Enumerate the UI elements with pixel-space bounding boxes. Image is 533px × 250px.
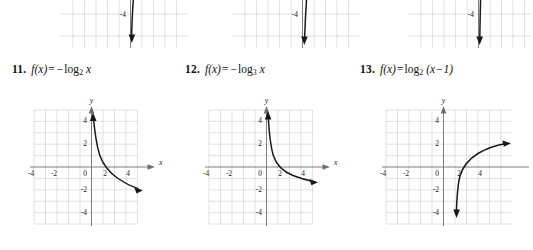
curve-partial-right <box>480 0 508 41</box>
curve-graph-11 <box>93 117 138 189</box>
curve-arrowhead-end <box>502 141 511 147</box>
y-tick-label: 4 <box>83 116 87 125</box>
graph-12: x y -4 -2 0 2 4 4 2 -2 -4 <box>205 96 355 236</box>
partial-graph-middle: x -4 -2 0 2 4 -2 -4 <box>232 0 362 50</box>
x-tick-label: -4 <box>28 169 34 178</box>
x-tick-label: 0 <box>258 169 262 178</box>
exercise-number: 12. <box>185 63 200 75</box>
y-tick-label: -4 <box>256 208 262 217</box>
x-tick-label: 2 <box>103 169 107 178</box>
exercise-number: 11. <box>12 63 26 75</box>
log-base: 2 <box>419 68 423 77</box>
curve-arrowhead-bottom <box>453 210 460 219</box>
grid-lines <box>232 0 360 48</box>
curve-arrowhead <box>476 37 483 46</box>
log-argument: x <box>260 63 265 75</box>
y-tick-label: -4 <box>120 10 126 19</box>
y-tick-label: 4 <box>435 116 439 125</box>
curve-arrowhead-end <box>309 179 318 185</box>
y-tick-label: -2 <box>256 185 262 194</box>
y-tick-label: -2 <box>433 185 439 194</box>
partial-graph-right: -4 -2 0 2 4 -2 -4 <box>408 0 533 50</box>
y-tick-label: 2 <box>83 139 87 148</box>
y-axis-label: y <box>441 96 446 105</box>
y-tick-label: -4 <box>433 208 439 217</box>
y-tick-label: -2 <box>81 185 87 194</box>
log-argument-close: 1) <box>444 63 454 75</box>
x-tick-label: 2 <box>278 169 282 178</box>
y-tick-label: -4 <box>292 10 298 19</box>
y-tick-label: 4 <box>258 116 262 125</box>
grid-lines <box>60 0 188 48</box>
log-argument-open: (x <box>426 63 435 75</box>
x-tick-label: -4 <box>380 169 386 178</box>
curve-arrowhead-top <box>90 113 97 122</box>
x-tick-label: -2 <box>226 169 232 178</box>
y-axis-label: y <box>264 96 269 105</box>
y-tick-label: 2 <box>435 139 439 148</box>
exercise-number: 13. <box>360 63 375 75</box>
grid-lines <box>408 0 531 48</box>
curve-arrowhead <box>129 35 136 44</box>
exercise-12-label: 12.f(x)=−log3 x <box>185 64 265 77</box>
log-text: log <box>404 63 419 75</box>
log-base: 3 <box>253 68 257 77</box>
curve-partial-left <box>132 0 165 39</box>
log-base: 2 <box>79 68 83 77</box>
graph-13: y -4 -2 0 2 4 4 2 -2 -4 <box>382 96 532 236</box>
x-axis-label: x <box>333 158 338 167</box>
x-tick-label: -2 <box>403 169 409 178</box>
exercise-formula: f(x)=log2 (x−1) <box>380 63 453 75</box>
x-axis-label: x <box>158 158 163 167</box>
curve-graph-12 <box>268 115 313 181</box>
equals-sign: = <box>47 63 56 75</box>
graph-11: x y -4 -2 0 2 4 4 2 -2 -4 <box>30 96 180 236</box>
y-tick-label: -4 <box>468 10 474 19</box>
exercise-formula: f(x)=−log3 x <box>205 63 265 75</box>
y-axis-label: y <box>89 96 94 105</box>
x-axis-arrowhead <box>323 164 331 170</box>
y-tick-label: -4 <box>81 208 87 217</box>
x-tick-label: 4 <box>301 169 305 178</box>
y-tick-label: 2 <box>258 139 262 148</box>
exercise-formula: f(x)=−log2 x <box>31 63 91 75</box>
exercise-13-label: 13.f(x)=log2 (x−1) <box>360 64 453 77</box>
exercise-11-label: 11.f(x)=−log2 x <box>12 64 91 77</box>
function-name: f(x) <box>31 63 47 75</box>
x-tick-label: -4 <box>203 169 209 178</box>
x-tick-label: 4 <box>126 169 130 178</box>
x-tick-label: 0 <box>435 169 439 178</box>
x-tick-label: 4 <box>478 169 482 178</box>
function-name: f(x) <box>205 63 221 75</box>
function-name: f(x) <box>380 63 396 75</box>
minus-sign: − <box>229 63 238 75</box>
partial-graph-left: -4 -2 0 2 4 -2 -4 <box>60 0 190 50</box>
x-axis-arrowhead <box>148 164 156 170</box>
minus-sign: − <box>435 63 444 75</box>
log-text: log <box>64 63 79 75</box>
curve-partial-middle <box>305 0 322 41</box>
x-tick-label: -2 <box>51 169 57 178</box>
log-argument: x <box>86 63 91 75</box>
x-tick-label: 0 <box>83 169 87 178</box>
log-text: log <box>238 63 253 75</box>
